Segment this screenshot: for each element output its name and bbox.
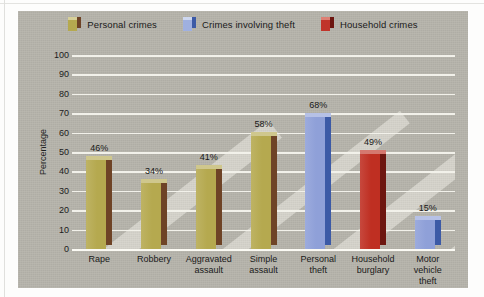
y-axis-tick-label: 90	[35, 69, 69, 79]
scan-edge-left-rule	[4, 0, 5, 297]
legend-item-label: Crimes involving theft	[202, 19, 295, 30]
bar-front-face	[415, 220, 435, 249]
bar-group: 46%34%41%58%68%49%15%	[72, 55, 455, 249]
legend-cube-icon	[321, 17, 334, 31]
bar-side-face	[106, 156, 112, 245]
legend-item-label: Household crimes	[340, 19, 418, 30]
bar: 49%	[360, 150, 386, 249]
legend-item: Crimes involving theft	[183, 17, 295, 31]
x-axis-category-labels: RapeRobberyAggravatedassaultSimpleassaul…	[72, 254, 455, 287]
category-label-line: Personal	[292, 254, 345, 265]
cube-front-face	[183, 20, 192, 31]
bar-side-face	[435, 216, 441, 245]
y-axis-tick-label: 80	[35, 89, 69, 99]
bar-value-label: 46%	[90, 143, 108, 153]
cube-front-face	[321, 20, 330, 31]
legend-item: Personal crimes	[68, 17, 157, 31]
bar-front-face	[251, 136, 271, 249]
category-label-line: Robbery	[128, 254, 181, 265]
bar-slot: 46%	[72, 55, 127, 249]
bar-side-face	[325, 113, 331, 245]
bar-top-face	[86, 156, 112, 160]
bar: 68%	[305, 113, 331, 249]
chart-panel: Personal crimesCrimes involving theftHou…	[18, 11, 468, 288]
y-axis-tick-label: 70	[35, 108, 69, 118]
bar-slot: 34%	[127, 55, 182, 249]
x-axis-category-label: Robbery	[127, 254, 182, 287]
bar-front-face	[196, 169, 216, 249]
category-label-line: Simple	[237, 254, 290, 265]
bar-top-face	[251, 132, 277, 136]
bar-front-face	[360, 154, 380, 249]
bar-side-face	[271, 132, 277, 245]
x-axis-category-label: Rape	[72, 254, 127, 287]
bar-value-label: 41%	[200, 152, 218, 162]
bar-front-face	[305, 117, 325, 249]
bar: 34%	[141, 179, 167, 249]
bar-slot: 68%	[291, 55, 346, 249]
y-axis-tick-label: 0	[35, 244, 69, 254]
legend-item-label: Personal crimes	[87, 19, 157, 30]
x-axis-category-label: Aggravatedassault	[181, 254, 236, 287]
bar-value-label: 49%	[364, 137, 382, 147]
x-axis-category-label: Motorvehicletheft	[400, 254, 455, 287]
chart-screenshot: Personal crimesCrimes involving theftHou…	[0, 0, 484, 297]
x-axis-category-label: Householdburglary	[346, 254, 401, 287]
y-axis-tick-label: 50	[35, 147, 69, 157]
bar-value-label: 58%	[255, 119, 273, 129]
category-label-line: Motor	[401, 254, 454, 265]
bar-side-face	[161, 179, 167, 245]
category-label-line: vehicle	[401, 265, 454, 276]
y-axis-tick-label: 30	[35, 186, 69, 196]
bar-value-label: 15%	[419, 203, 437, 213]
category-label-line: assault	[182, 265, 235, 276]
bar-side-face	[380, 150, 386, 245]
bar-slot: 49%	[346, 55, 401, 249]
bar-slot: 41%	[181, 55, 236, 249]
cube-side-face	[77, 17, 81, 28]
y-axis-tick-label: 100	[35, 50, 69, 60]
cube-side-face	[330, 17, 334, 28]
bar-top-face	[415, 216, 441, 220]
chart-legend: Personal crimesCrimes involving theftHou…	[18, 17, 468, 31]
axis-baseline	[72, 249, 455, 251]
category-label-line: theft	[292, 265, 345, 276]
bar: 46%	[86, 156, 112, 249]
x-axis-category-label: Simpleassault	[236, 254, 291, 287]
category-label-line: burglary	[347, 265, 400, 276]
bar-slot: 58%	[236, 55, 291, 249]
cube-front-face	[68, 20, 77, 31]
y-axis-tick-label: 60	[35, 128, 69, 138]
bar-value-label: 68%	[309, 100, 327, 110]
bar-top-face	[141, 179, 167, 183]
bar-top-face	[360, 150, 386, 154]
scan-edge-top-rule	[0, 3, 484, 4]
plot-area: 1009080706050403020100 46%34%41%58%68%49…	[72, 55, 455, 249]
cube-side-face	[192, 17, 196, 28]
legend-item: Household crimes	[321, 17, 418, 31]
y-axis-tick-label: 10	[35, 225, 69, 235]
bar-top-face	[196, 165, 222, 169]
bar-top-face	[305, 113, 331, 117]
bar-side-face	[216, 165, 222, 245]
category-label-line: theft	[401, 276, 454, 287]
bar: 15%	[415, 216, 441, 249]
category-label-line: Household	[347, 254, 400, 265]
x-axis-category-label: Personaltheft	[291, 254, 346, 287]
bar-front-face	[86, 160, 106, 249]
category-label-line: Rape	[73, 254, 126, 265]
bar: 58%	[251, 132, 277, 249]
bar: 41%	[196, 165, 222, 249]
y-axis-tick-label: 20	[35, 205, 69, 215]
bar-slot: 15%	[400, 55, 455, 249]
bar-value-label: 34%	[145, 166, 163, 176]
category-label-line: assault	[237, 265, 290, 276]
bar-front-face	[141, 183, 161, 249]
legend-cube-icon	[183, 17, 196, 31]
category-label-line: Aggravated	[182, 254, 235, 265]
y-axis-tick-label: 40	[35, 166, 69, 176]
legend-cube-icon	[68, 17, 81, 31]
